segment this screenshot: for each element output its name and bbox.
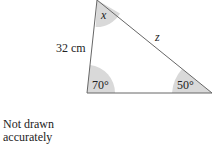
- note-line-2: accurately: [3, 131, 54, 144]
- angle-label-bottom-right: 50°: [177, 78, 194, 92]
- side-label-hypotenuse: z: [154, 30, 160, 44]
- not-drawn-accurately-note: Not drawn accurately: [3, 118, 54, 144]
- angle-label-bottom-left: 70°: [92, 78, 109, 92]
- angle-label-top: x: [100, 8, 107, 22]
- side-label-left: 32 cm: [56, 41, 86, 55]
- angle-sector-top: [96, 0, 120, 27]
